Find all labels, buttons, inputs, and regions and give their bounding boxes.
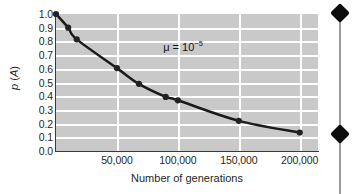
x-tick-label: 200,000 <box>265 155 335 166</box>
y-axis-title-paren-open: ( <box>8 77 20 84</box>
selection-guide-line <box>339 6 341 194</box>
selection-handle-bottom[interactable] <box>330 124 350 144</box>
chart-figure: μ = 10−5 1.0 0.9 0.8 0.7 0.6 0.5 0.4 0.3… <box>0 0 358 194</box>
y-axis-title-p: p <box>8 84 20 90</box>
y-axis-title: p (A) <box>8 43 20 113</box>
selection-handle-top[interactable] <box>330 3 350 23</box>
x-axis-title: Number of generations <box>56 172 318 184</box>
x-tick-label: 100,000 <box>143 155 213 166</box>
y-axis-title-a: A <box>8 70 20 77</box>
x-tick-label: 150,000 <box>204 155 274 166</box>
y-axis-title-paren-close: ) <box>8 66 20 70</box>
x-axis-tick-labels: 50,000 100,000 150,000 200,000 <box>0 0 358 194</box>
x-tick-label: 50,000 <box>82 155 152 166</box>
selection-handle-overlay[interactable] <box>330 0 350 194</box>
